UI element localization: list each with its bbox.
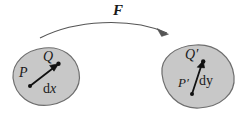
label-point-q-prime-mark: ′	[195, 47, 198, 62]
label-point-p-prime: P′	[178, 76, 189, 89]
label-dy-d: d	[199, 73, 206, 88]
label-point-q-prime-letter: Q	[185, 47, 195, 62]
label-point-p-prime-mark: ′	[186, 75, 189, 90]
label-dx-var: x	[50, 81, 56, 96]
label-dx: dx	[43, 82, 56, 96]
point-q-dot	[56, 62, 60, 66]
label-dy-var: y	[206, 73, 213, 88]
mapping-arrow-curve	[40, 23, 167, 38]
mapping-label-f: F	[113, 3, 123, 18]
label-point-p: P	[19, 66, 28, 80]
label-point-q: Q	[43, 50, 53, 64]
label-dy: dy	[199, 74, 213, 88]
label-point-q-prime: Q′	[185, 48, 198, 62]
vector-mapping-figure: F P Q dx P′ Q′ dy	[0, 0, 245, 119]
label-point-p-prime-letter: P	[178, 75, 186, 90]
point-q-prime-dot	[201, 59, 205, 63]
label-dx-d: d	[43, 81, 50, 96]
